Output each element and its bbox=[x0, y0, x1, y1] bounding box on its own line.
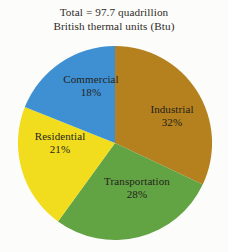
pie-label-industrial-percent: 32% bbox=[162, 116, 182, 128]
pie-label-industrial-name: Industrial bbox=[150, 103, 193, 115]
pie-label-commercial-percent: 18% bbox=[81, 86, 101, 98]
pie-label-transportation-percent: 28% bbox=[127, 188, 147, 200]
pie-label-residential-percent: 21% bbox=[50, 143, 70, 155]
pie-label-transportation-name: Transportation bbox=[104, 175, 170, 187]
pie-label-commercial-name: Commercial bbox=[63, 73, 118, 85]
pie-svg: Industrial 32% Transportation 28% Reside… bbox=[0, 0, 228, 252]
pie-label-residential-name: Residential bbox=[35, 130, 86, 142]
pie-chart-figure: Total = 97.7 quadrillion British thermal… bbox=[0, 0, 228, 252]
pie-container: Industrial 32% Transportation 28% Reside… bbox=[0, 0, 228, 252]
